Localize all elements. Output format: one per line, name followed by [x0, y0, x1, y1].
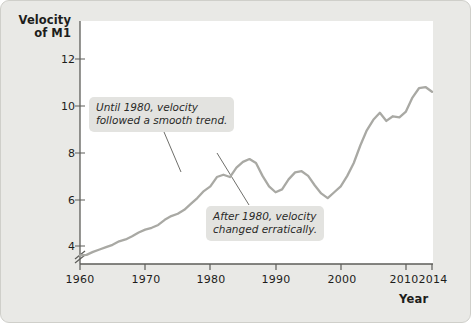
x-tick-marks: [80, 264, 432, 270]
velocity-series-line: [80, 87, 432, 255]
chart-figure: Velocity of M1 12 10 8 6 4 1960 1970 198…: [0, 0, 471, 323]
annotation-pre-1980-leader: [164, 132, 181, 172]
chart-svg: [1, 1, 471, 323]
